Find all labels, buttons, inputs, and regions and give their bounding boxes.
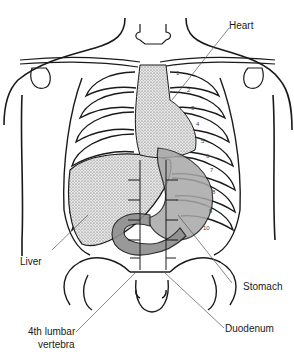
svg-text:7: 7: [210, 167, 214, 173]
label-heart: Heart: [229, 20, 253, 31]
heart: [135, 65, 196, 158]
label-stomach: Stomach: [243, 281, 282, 292]
svg-text:4: 4: [196, 121, 200, 127]
cervical-vertebra: [136, 24, 171, 44]
svg-text:5: 5: [201, 138, 205, 144]
label-duodenum: Duodenum: [225, 323, 274, 334]
label-liver: Liver: [20, 256, 42, 267]
svg-text:10: 10: [203, 225, 210, 231]
label-lumbar-line1: 4th lumbar: [28, 326, 75, 337]
svg-text:8: 8: [212, 189, 216, 195]
torso-illustration: 1 2 3 4 5 6 7 8 9 10: [0, 0, 294, 355]
label-lumbar-line2: vertebra: [38, 339, 75, 350]
anatomy-diagram: 1 2 3 4 5 6 7 8 9 10 Heart Liver Stomach…: [0, 0, 294, 355]
pelvis: [64, 258, 236, 312]
